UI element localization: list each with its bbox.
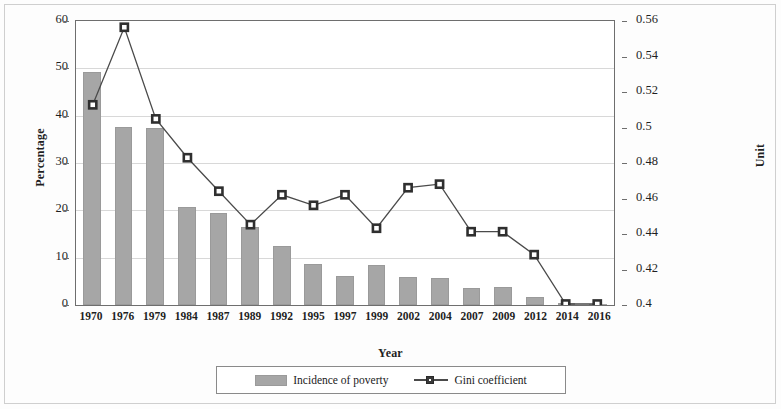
bar-slot [582, 21, 614, 305]
x-axis-tick-label: 2007 [456, 310, 488, 332]
x-axis-tick-label: 1997 [329, 310, 361, 332]
y-axis-right-tick-mark [622, 234, 627, 235]
y-axis-right-tick-mark [622, 163, 627, 164]
bar-slot [361, 21, 393, 305]
bar-slot [139, 21, 171, 305]
x-axis-tick-label: 2012 [520, 310, 552, 332]
line-marker-swatch-icon [414, 375, 448, 385]
bar-2012 [526, 297, 544, 305]
y-axis-right-tick-mark [622, 128, 627, 129]
y-axis-right-tick-label: 0.42 [636, 261, 696, 276]
legend-item-gini-coefficient: Gini coefficient [414, 374, 526, 386]
combo-chart: Percentage Unit Year 0102030405060 0.40.… [0, 0, 781, 409]
x-axis-tick-label: 1979 [139, 310, 171, 332]
y-axis-left-tick-label: 0 [8, 296, 68, 311]
y-axis-right-tick-label: 0.56 [636, 12, 696, 27]
bar-1979 [146, 128, 164, 305]
x-axis-tick-label: 2016 [583, 310, 615, 332]
plot-area [75, 20, 615, 306]
bar-slot [171, 21, 203, 305]
x-axis-tick-label: 1999 [361, 310, 393, 332]
y-axis-left-tick-mark [64, 210, 69, 211]
y-axis-right-tick-mark [622, 270, 627, 271]
y-axis-left-tick-label: 10 [8, 249, 68, 264]
bar-1984 [178, 207, 196, 305]
y-axis-left-tick-label: 30 [8, 154, 68, 169]
legend-label-incidence-of-poverty: Incidence of poverty [293, 374, 388, 386]
x-axis-tick-label: 1989 [234, 310, 266, 332]
chart-legend: Incidence of poverty Gini coefficient [216, 366, 566, 394]
chart-figure: Percentage Unit Year 0102030405060 0.40.… [0, 0, 781, 409]
bar-slot [76, 21, 108, 305]
x-axis-tick-label: 1987 [202, 310, 234, 332]
bar-series-incidence-of-poverty [76, 21, 614, 305]
bar-1995 [304, 264, 322, 305]
y-axis-right-tick-label: 0.44 [636, 225, 696, 240]
bar-swatch-icon [255, 375, 287, 386]
bar-slot [392, 21, 424, 305]
y-axis-left-ticks: 0102030405060 [8, 20, 68, 306]
y-axis-left-tick-mark [64, 163, 69, 164]
x-axis-tick-label: 1984 [170, 310, 202, 332]
bar-2009 [494, 287, 512, 305]
bar-1999 [368, 265, 386, 305]
legend-label-gini-coefficient: Gini coefficient [454, 374, 526, 386]
y-axis-left-tick-mark [64, 68, 69, 69]
y-axis-left-tick-label: 50 [8, 59, 68, 74]
bar-slot [519, 21, 551, 305]
y-axis-right-tick-label: 0.54 [636, 48, 696, 63]
bar-slot [297, 21, 329, 305]
y-axis-right-tick-label: 0.52 [636, 83, 696, 98]
x-axis-tick-label: 1995 [297, 310, 329, 332]
bar-2002 [399, 277, 417, 305]
y-axis-left-tick-label: 60 [8, 12, 68, 27]
bar-2004 [431, 278, 449, 305]
y-axis-right-tick-mark [622, 305, 627, 306]
y-axis-right-tick-label: 0.48 [636, 154, 696, 169]
bar-slot [424, 21, 456, 305]
x-axis-tick-label: 1976 [107, 310, 139, 332]
bar-slot [203, 21, 235, 305]
y-axis-left-tick-mark [64, 305, 69, 306]
bar-1976 [115, 127, 133, 305]
bar-1992 [273, 246, 291, 305]
x-axis-tick-label: 2002 [393, 310, 425, 332]
x-axis-tick-label: 1992 [266, 310, 298, 332]
x-axis-tick-label: 1970 [75, 310, 107, 332]
legend-item-incidence-of-poverty: Incidence of poverty [255, 374, 388, 386]
bar-2014 [558, 303, 576, 305]
bar-slot [551, 21, 583, 305]
y-axis-left-tick-label: 20 [8, 201, 68, 216]
y-axis-right-tick-mark [622, 57, 627, 58]
bar-2016 [589, 304, 607, 305]
y-axis-right-title: Unit [753, 96, 768, 216]
y-axis-left-tick-mark [64, 258, 69, 259]
x-axis-tick-label: 2004 [424, 310, 456, 332]
y-axis-right-tick-mark [622, 199, 627, 200]
y-axis-right-tick-mark [622, 21, 627, 22]
y-axis-left-tick-mark [64, 116, 69, 117]
x-axis-ticks: 1970197619791984198719891992199519971999… [75, 310, 615, 332]
bar-slot [234, 21, 266, 305]
y-axis-right-tick-label: 0.46 [636, 190, 696, 205]
x-axis-tick-label: 2014 [551, 310, 583, 332]
y-axis-right-tick-label: 0.4 [636, 296, 696, 311]
y-axis-right-tick-label: 0.5 [636, 119, 696, 134]
y-axis-right-ticks: 0.40.420.440.460.480.50.520.540.56 [622, 20, 682, 306]
bar-slot [487, 21, 519, 305]
x-axis-tick-label: 2009 [488, 310, 520, 332]
bar-2007 [463, 288, 481, 305]
bar-1970 [83, 72, 101, 305]
bar-slot [329, 21, 361, 305]
bar-slot [108, 21, 140, 305]
bar-1989 [241, 227, 259, 305]
bar-1987 [210, 213, 228, 305]
bar-slot [266, 21, 298, 305]
y-axis-left-tick-mark [64, 21, 69, 22]
x-axis-title: Year [0, 346, 781, 361]
bar-slot [456, 21, 488, 305]
y-axis-right-tick-mark [622, 92, 627, 93]
bar-1997 [336, 276, 354, 305]
y-axis-left-tick-label: 40 [8, 107, 68, 122]
